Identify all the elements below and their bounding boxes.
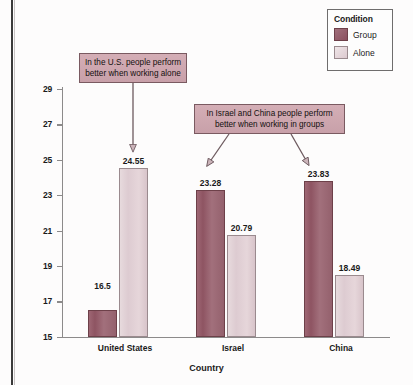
page-edge-rule bbox=[11, 0, 13, 385]
legend-item-group[interactable]: Group bbox=[334, 27, 387, 42]
y-tick-label-19-wrap: 19 bbox=[22, 261, 52, 271]
y-tick-label-29-wrap: 29 bbox=[22, 84, 52, 94]
legend-label-alone: Alone bbox=[353, 48, 375, 58]
y-tick-label-29: 29 bbox=[26, 84, 52, 94]
page-edge-shadow bbox=[14, 0, 15, 385]
bar-united-states-group[interactable] bbox=[88, 310, 117, 337]
y-tick-label-15: 15 bbox=[26, 332, 52, 342]
chart-figure: 29 27 25 23 21 19 17 15 Performance Coun… bbox=[0, 0, 413, 385]
bar-china-alone[interactable] bbox=[335, 275, 364, 337]
legend-title: Condition bbox=[334, 14, 387, 24]
bar-value-israel-alone: 20.79 bbox=[215, 223, 268, 233]
y-tick-label-17: 17 bbox=[26, 296, 52, 306]
y-tick-label-23-wrap: 23 bbox=[22, 190, 52, 200]
y-tick-label-21: 21 bbox=[26, 226, 52, 236]
y-tick-label-25: 25 bbox=[26, 155, 52, 165]
bar-value-china-group: 23.83 bbox=[292, 169, 345, 179]
legend: Condition Group Alone bbox=[327, 9, 393, 71]
y-tick-label-21-wrap: 21 bbox=[22, 226, 52, 236]
x-axis-line bbox=[62, 337, 390, 338]
x-label-china: China bbox=[296, 343, 386, 353]
alone-swatch-icon bbox=[334, 46, 348, 59]
annotation-callout-us: In the U.S. people perform better when w… bbox=[79, 53, 187, 83]
annotation-callout-israel-china: In Israel and China people perform bette… bbox=[194, 104, 345, 134]
group-swatch-icon bbox=[334, 28, 348, 41]
x-label-united-states: United States bbox=[80, 343, 170, 353]
y-tick-label-23: 23 bbox=[26, 190, 52, 200]
y-tick-label-27: 27 bbox=[26, 119, 52, 129]
x-label-israel: Israel bbox=[188, 343, 278, 353]
legend-label-group: Group bbox=[353, 30, 377, 40]
x-axis-title: Country bbox=[0, 363, 413, 373]
bar-value-israel-group: 23.28 bbox=[184, 178, 237, 188]
y-tick-label-17-wrap: 17 bbox=[22, 296, 52, 306]
bar-china-group[interactable] bbox=[304, 181, 333, 337]
bar-united-states-alone[interactable] bbox=[119, 168, 148, 337]
y-tick-label-25-wrap: 25 bbox=[22, 155, 52, 165]
bar-israel-group[interactable] bbox=[196, 190, 225, 337]
bar-israel-alone[interactable] bbox=[227, 235, 256, 338]
bar-value-china-alone: 18.49 bbox=[323, 263, 376, 273]
y-tick-label-15-wrap: 15 bbox=[22, 332, 52, 342]
legend-item-alone[interactable]: Alone bbox=[334, 45, 387, 60]
y-tick-label-19: 19 bbox=[26, 261, 52, 271]
y-tick-label-27-wrap: 27 bbox=[22, 119, 52, 129]
bar-value-united-states-alone: 24.55 bbox=[107, 156, 160, 166]
